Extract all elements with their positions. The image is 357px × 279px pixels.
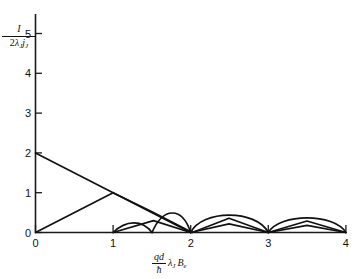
x-axis-label-denominator: ħ: [155, 265, 164, 275]
y-tick-labels: 5 4 3 2 1 0: [25, 28, 31, 239]
x-axis-label-numerator: qd: [152, 252, 166, 262]
y-tick-label: 3: [25, 107, 31, 119]
x-tick-label: 4: [343, 237, 349, 249]
x-tick-label: 0: [32, 237, 38, 249]
y-axis-label: I 2λJjJ: [2, 24, 36, 50]
y-axis-label-den-j-sub: J: [25, 41, 28, 49]
chart-svg: 5 4 3 2 1 0 0 1 2 3 4: [0, 0, 357, 279]
x-axis-label-b-sub: e: [184, 262, 187, 270]
y-tick-label: 0: [25, 227, 31, 239]
y-tick-label: 2: [25, 147, 31, 159]
y-tick-label: 4: [25, 67, 31, 79]
x-tick-labels: 0 1 2 3 4: [32, 237, 349, 249]
y-axis-label-numerator: I: [17, 23, 20, 34]
x-axis-label-fraction: qd ħ: [152, 252, 166, 275]
x-tick-label: 2: [188, 237, 194, 249]
x-tick-label: 1: [110, 237, 116, 249]
x-tick-label: 3: [265, 237, 271, 249]
figure-plot-area: 5 4 3 2 1 0 0 1 2 3 4 I 2λJjJ: [0, 0, 357, 279]
x-axis-label-lambda-sub: J: [172, 262, 175, 270]
y-tick-label: 1: [25, 187, 31, 199]
y-axis-ticks: [36, 34, 43, 233]
x-axis-label: qd ħ λJ Be: [152, 252, 187, 275]
